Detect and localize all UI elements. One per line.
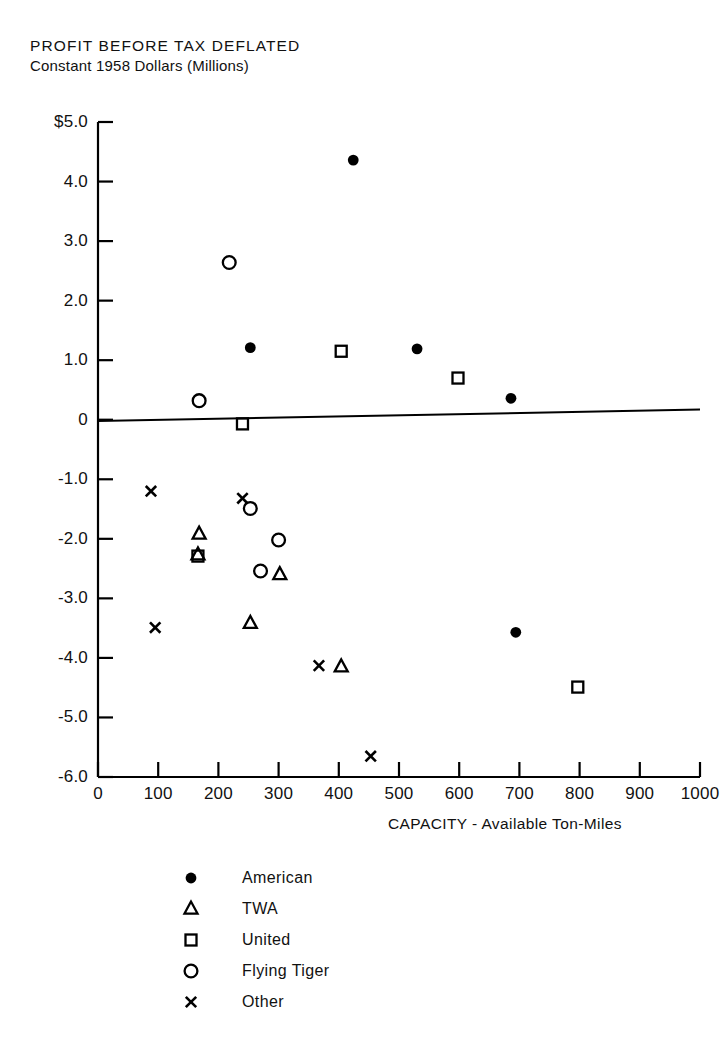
- chart-figure: PROFIT BEFORE TAX DEFLATED Constant 1958…: [0, 0, 728, 1056]
- data-point: [223, 256, 236, 269]
- x-axis-tick-label: 0: [93, 784, 103, 804]
- series-american: [245, 155, 521, 638]
- y-axis-tick-label: 2.0: [64, 291, 88, 311]
- legend-item-twa[interactable]: TWA: [168, 893, 330, 924]
- x-axis-tick-label: 700: [505, 784, 534, 804]
- filled-circle-icon: [168, 866, 214, 890]
- filled-circle-glyph: [186, 872, 197, 883]
- legend-marker-glyph: [179, 959, 203, 983]
- legend-item-united[interactable]: United: [168, 924, 330, 955]
- axes-group: [98, 122, 700, 777]
- data-point: [244, 502, 257, 515]
- legend-marker-glyph: [179, 866, 203, 890]
- y-axis-tick-label: -1.0: [58, 469, 88, 489]
- x-axis-tick-label: 900: [625, 784, 654, 804]
- data-point: [348, 155, 359, 166]
- open-circle-icon: [168, 959, 214, 983]
- data-point: [237, 418, 248, 429]
- legend-item-label: American: [242, 869, 313, 887]
- legend-marker-glyph: [179, 990, 203, 1014]
- y-axis-tick-label: -6.0: [58, 767, 88, 787]
- y-axis-tick-label: 0: [78, 410, 88, 430]
- data-point: [510, 627, 521, 638]
- legend-item-label: United: [242, 931, 291, 949]
- triangle-icon: [168, 897, 214, 921]
- x-axis-tick-label: 800: [565, 784, 594, 804]
- data-point: [254, 565, 267, 578]
- y-axis-tick-label: -4.0: [58, 648, 88, 668]
- plot-area: $5.04.03.02.01.00-1.0-2.0-3.0-4.0-5.0-6.…: [0, 0, 728, 1056]
- x-axis-tick-label: 200: [204, 784, 233, 804]
- triangle-glyph: [185, 901, 198, 913]
- x-axis-title: CAPACITY - Available Ton-Miles: [388, 815, 622, 833]
- series-united: [192, 346, 583, 693]
- x-axis-tick-label: 100: [144, 784, 173, 804]
- data-point: [412, 343, 423, 354]
- open-circle-glyph: [185, 964, 198, 977]
- data-point: [193, 527, 206, 539]
- y-axis-tick-label: -5.0: [58, 707, 88, 727]
- legend-marker-glyph: [179, 928, 203, 952]
- x-axis-tick-label: 500: [385, 784, 414, 804]
- data-point: [335, 659, 348, 671]
- y-axis-tick-label: -3.0: [58, 588, 88, 608]
- y-axis-tick-label: 3.0: [64, 231, 88, 251]
- legend-item-other[interactable]: Other: [168, 986, 330, 1017]
- regression-line: [98, 410, 700, 421]
- data-point: [506, 393, 517, 404]
- square-icon: [168, 928, 214, 952]
- data-point: [452, 373, 463, 384]
- trend-line-group: [98, 410, 700, 421]
- legend-item-label: Flying Tiger: [242, 962, 330, 980]
- plot-canvas: [0, 0, 728, 1056]
- data-point: [193, 394, 206, 407]
- legend-item-american[interactable]: American: [168, 862, 330, 893]
- data-point: [336, 346, 347, 357]
- square-glyph: [186, 934, 197, 945]
- x-axis-tick-label: 1000: [681, 784, 720, 804]
- y-axis-tick-label: 1.0: [64, 350, 88, 370]
- y-axis-tick-label: $5.0: [54, 112, 88, 132]
- legend-item-flying-tiger[interactable]: Flying Tiger: [168, 955, 330, 986]
- data-point: [272, 534, 285, 547]
- legend-marker-glyph: [179, 897, 203, 921]
- y-axis-tick-label: -2.0: [58, 529, 88, 549]
- data-point: [245, 342, 256, 353]
- legend-item-label: Other: [242, 993, 284, 1011]
- series-twa: [191, 527, 347, 672]
- legend-item-label: TWA: [242, 900, 278, 918]
- data-point: [572, 682, 583, 693]
- data-point: [273, 567, 286, 579]
- data-point: [244, 616, 257, 628]
- x-axis-tick-label: 600: [445, 784, 474, 804]
- chart-legend: AmericanTWAUnitedFlying TigerOther: [168, 862, 330, 1017]
- data-points-group: [146, 155, 584, 762]
- x-icon: [168, 990, 214, 1014]
- x-axis-tick-label: 300: [264, 784, 293, 804]
- series-other: [146, 486, 376, 761]
- y-axis-tick-label: 4.0: [64, 172, 88, 192]
- x-axis-tick-label: 400: [324, 784, 353, 804]
